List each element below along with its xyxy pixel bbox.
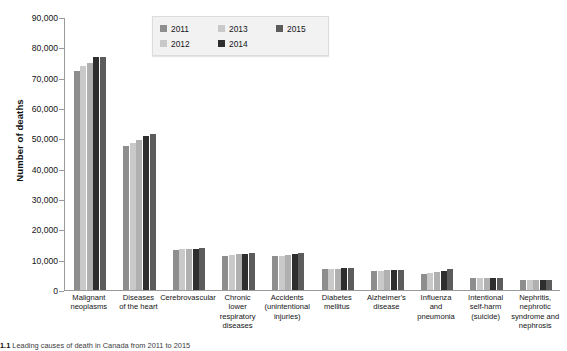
x-category-label-line: syndrome and <box>504 312 566 321</box>
bar <box>199 248 205 290</box>
bar <box>173 250 179 290</box>
legend-item[interactable]: 2014 <box>218 39 276 49</box>
figure-caption: 1.1 Leading causes of death in Canada fr… <box>0 341 567 350</box>
bar <box>441 271 447 290</box>
bar <box>421 274 427 290</box>
y-tick-label: 40,000 <box>32 165 58 175</box>
y-tick-label: 10,000 <box>32 256 58 266</box>
chart-legend: 20112013201520122014 <box>152 16 329 56</box>
x-category-label-line: nephrotic <box>504 302 566 311</box>
bar <box>298 253 304 290</box>
bar-group <box>470 18 502 290</box>
legend-item[interactable]: 2011 <box>160 24 218 34</box>
plot-area: 010,00020,00030,00040,00050,00060,00070,… <box>64 18 560 291</box>
x-category-label-line: diseases <box>207 321 269 330</box>
bar <box>427 273 433 290</box>
caption-text: Leading causes of death in Canada from 2… <box>12 341 190 350</box>
bar <box>546 280 552 290</box>
bar <box>87 63 93 290</box>
bar <box>371 271 377 290</box>
bar <box>484 278 490 290</box>
bar <box>447 269 453 290</box>
bar <box>279 256 285 290</box>
bar <box>249 253 255 290</box>
legend-label: 2014 <box>229 39 248 49</box>
x-category-label-line: Nephritis, <box>504 293 566 302</box>
bar-group <box>322 18 354 290</box>
bar <box>322 269 328 290</box>
x-axis-line <box>64 290 560 291</box>
bar-group <box>272 18 304 290</box>
bar-group <box>371 18 403 290</box>
legend-item[interactable]: 2015 <box>276 24 328 34</box>
bar <box>391 270 397 290</box>
bar-group <box>222 18 254 290</box>
y-axis-tick-labels: 010,00020,00030,00040,00050,00060,00070,… <box>6 18 58 291</box>
legend-label: 2011 <box>171 24 189 34</box>
y-tick-mark <box>59 200 64 201</box>
legend-swatch-icon <box>276 25 283 32</box>
legend-swatch-icon <box>218 40 225 47</box>
bar-group <box>173 18 205 290</box>
legend-label: 2015 <box>287 24 306 34</box>
y-tick-label: 60,000 <box>32 104 58 114</box>
bar <box>533 280 539 290</box>
bar <box>434 272 440 290</box>
bar <box>384 270 390 290</box>
bar <box>292 254 298 290</box>
bar <box>80 66 86 290</box>
bar <box>470 278 476 290</box>
bar-series-layer <box>65 18 560 290</box>
bar <box>100 57 106 290</box>
bar-group <box>520 18 552 290</box>
bar <box>93 57 99 290</box>
bar <box>236 254 242 290</box>
bar <box>348 268 354 290</box>
bar <box>335 269 341 290</box>
x-category-label-line: nephrosis <box>504 321 566 330</box>
y-tick-mark <box>59 291 64 292</box>
legend-swatch-icon <box>160 40 167 47</box>
bar <box>341 268 347 290</box>
y-tick-label: 30,000 <box>32 195 58 205</box>
y-tick-mark <box>59 170 64 171</box>
y-tick-mark <box>59 261 64 262</box>
bar <box>143 136 149 290</box>
x-category-label-line: of the heart <box>108 302 170 311</box>
bar <box>229 255 235 290</box>
bar <box>222 256 228 290</box>
bar <box>136 140 142 291</box>
bar <box>186 249 192 290</box>
y-tick-mark <box>59 79 64 80</box>
x-category-label-line: injuries) <box>256 312 318 321</box>
y-tick-mark <box>59 230 64 231</box>
legend-item[interactable]: 2012 <box>160 39 218 49</box>
bar <box>497 278 503 290</box>
legend-label: 2013 <box>229 24 248 34</box>
legend-swatch-icon <box>160 25 167 32</box>
legend-item[interactable]: 2013 <box>218 24 276 34</box>
y-tick-label: 20,000 <box>32 225 58 235</box>
y-tick-mark <box>59 18 64 19</box>
bar <box>74 71 80 290</box>
legend-swatch-icon <box>218 25 225 32</box>
caption-number: 1.1 <box>0 341 10 350</box>
y-tick-label: 50,000 <box>32 134 58 144</box>
bar <box>242 254 248 290</box>
bar <box>123 146 129 290</box>
y-tick-mark <box>59 139 64 140</box>
bar <box>540 280 546 290</box>
y-tick-label: 90,000 <box>32 13 58 23</box>
bar <box>398 270 404 290</box>
bar <box>272 256 278 290</box>
y-tick-label: 70,000 <box>32 74 58 84</box>
y-tick-mark <box>59 109 64 110</box>
bar <box>490 278 496 290</box>
bar <box>477 278 483 290</box>
legend-label: 2012 <box>171 39 190 49</box>
y-tick-label: 80,000 <box>32 43 58 53</box>
bar <box>520 280 526 290</box>
y-tick-mark <box>59 48 64 49</box>
bar-group <box>123 18 155 290</box>
bar <box>328 269 334 290</box>
